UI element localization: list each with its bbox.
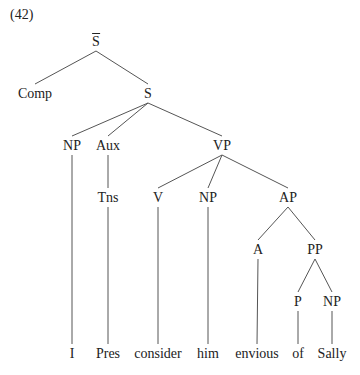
branch-ap-a (258, 207, 288, 240)
tree-node-v: V (153, 191, 163, 205)
tree-branches (0, 0, 360, 375)
tree-node-np3: NP (323, 295, 341, 309)
branch-ap-pp (288, 207, 315, 240)
tree-node-vp: VP (213, 139, 231, 153)
tree-node-ap: AP (279, 191, 297, 205)
branch-s-vp (148, 103, 222, 136)
node-label: Aux (96, 138, 120, 153)
node-label: A (253, 242, 263, 257)
tree-node-aux: Aux (96, 139, 120, 153)
node-label: P (294, 294, 302, 309)
tree-node-p: P (294, 295, 302, 309)
tree-node-sbar: S (92, 35, 100, 49)
branch-pp-np3 (315, 259, 332, 292)
branch-vp-np2 (208, 155, 222, 188)
tree-node-w_consider: consider (134, 347, 181, 361)
branch-sbar-s (96, 51, 148, 84)
node-label: Sally (318, 346, 347, 361)
node-label: Pres (96, 346, 120, 361)
branch-pp-p (298, 259, 315, 292)
tree-node-pp: PP (307, 243, 323, 257)
node-label: S (144, 86, 152, 101)
branch-s-aux (108, 103, 148, 136)
tree-node-w_i: I (70, 347, 75, 361)
node-label: NP (323, 294, 341, 309)
node-label: S (92, 35, 100, 49)
tree-node-s: S (144, 87, 152, 101)
tree-node-comp: Comp (18, 87, 52, 101)
tree-node-tns: Tns (98, 191, 119, 205)
tree-node-w_envious: envious (235, 347, 279, 361)
branch-vp-v (158, 155, 222, 188)
tree-node-w_sally: Sally (318, 347, 347, 361)
node-label: Tns (98, 190, 119, 205)
node-label: him (197, 346, 219, 361)
node-label: envious (235, 346, 279, 361)
branch-sbar-comp (35, 51, 96, 84)
node-label: consider (134, 346, 181, 361)
node-label: VP (213, 138, 231, 153)
tree-node-np2: NP (199, 191, 217, 205)
tree-node-w_of: of (292, 347, 304, 361)
branch-a-w_envious (257, 259, 258, 344)
node-label: NP (63, 138, 81, 153)
tree-node-np1: NP (63, 139, 81, 153)
branch-vp-ap (222, 155, 288, 188)
tree-node-a: A (253, 243, 263, 257)
node-label: V (153, 190, 163, 205)
tree-node-w_him: him (197, 347, 219, 361)
node-label: Comp (18, 86, 52, 101)
branch-s-np1 (72, 103, 148, 136)
tree-node-w_pres: Pres (96, 347, 120, 361)
node-label: of (292, 346, 304, 361)
node-label: NP (199, 190, 217, 205)
node-label: PP (307, 242, 323, 257)
node-label: I (70, 346, 75, 361)
node-label: AP (279, 190, 297, 205)
